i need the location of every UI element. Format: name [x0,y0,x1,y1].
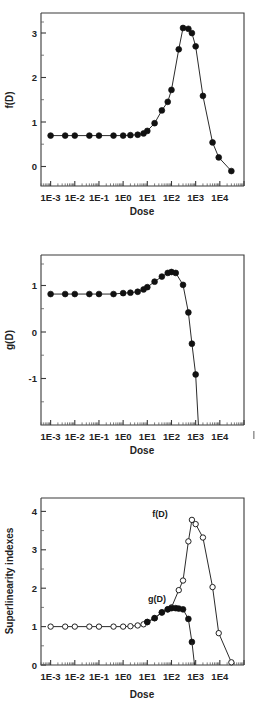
data-point [72,291,78,297]
data-point [135,289,141,295]
y-tick-label-3: 3 [32,28,37,39]
axis-frame [41,498,244,665]
data-point [62,624,67,629]
y-tick-label-1: 1 [32,117,38,128]
data-point [86,133,92,139]
axis-frame-top-right [41,13,244,186]
data-point [72,133,78,139]
y-axis-title: g(D) [4,330,15,350]
data-point [120,290,126,296]
x-tick-label: 1E3 [187,431,204,442]
series-g-markers [144,605,194,645]
series-g-line [147,608,192,642]
x-tick-labels: 1E-31E-21E-11E01E11E21E31E4 [41,431,229,442]
data-point [200,535,205,540]
x-axis-ticks [41,181,244,186]
y-tick-label-1: 1 [32,280,38,291]
x-tick-label: 1E3 [187,192,204,203]
x-tick-label: 1E-1 [89,431,110,442]
data-point [152,615,158,621]
data-point [144,128,150,134]
x-tick-label: 1E-3 [41,192,61,203]
x-tick-label: 1E-3 [41,671,61,682]
y-axis-ticks [41,511,46,665]
y-axis-title: f(D) [4,91,15,108]
series-f-markers [48,25,235,174]
series-f-line [51,28,232,171]
y-tick-label-2: 2 [32,72,37,83]
data-point [62,133,68,139]
x-tick-label: 1E-2 [65,192,85,203]
data-point [128,132,134,138]
x-tick-label: 1E3 [187,671,204,682]
x-axis-ticks [41,660,244,665]
data-point [159,107,165,113]
y-tick-label-4: 4 [32,506,38,517]
panel-g-dose: -1 0 1 1E-31E-21E-11E01E11E21E31E4 Dose … [0,235,258,465]
data-point [216,154,222,160]
data-point [210,140,216,146]
series-f-markers [48,517,234,665]
data-point [120,624,125,629]
x-tick-labels: 1E-31E-21E-11E01E11E21E31E4 [41,192,229,203]
data-point [185,616,191,622]
x-axis-title: Dose [130,445,155,456]
x-tick-label: 1E-3 [41,431,61,442]
data-point [189,341,195,347]
data-point [159,274,165,280]
axis-frame-top-right [41,498,244,665]
x-axis-ticks [41,420,244,425]
x-tick-label: 1E2 [163,192,180,203]
panel-f-plot: 0 1 2 3 1E-31E-21E-11E01E11E21E31E4 Dose… [0,0,258,235]
axis-frame [41,13,244,186]
y-tick-label-neg1: -1 [29,373,38,384]
panel-combined-plot: 0 1 2 3 4 1E-31E-21E-11E01E11E21E31E4 f(… [0,465,258,704]
data-point [135,623,140,628]
data-point [120,133,126,139]
x-axis-title: Dose [130,689,155,700]
x-tick-label: 1E1 [139,671,157,682]
y-tick-label-3: 3 [32,544,37,555]
data-point [96,133,102,139]
x-tick-label: 1E2 [163,671,180,682]
data-point [228,168,234,174]
page-edge-mark [253,431,255,439]
data-point [169,87,175,93]
data-point [135,132,141,138]
data-point [128,290,134,296]
x-tick-label: 1E4 [211,192,229,203]
axis-frame-top-right [41,255,244,425]
panel-superlinearity-indexes: 0 1 2 3 4 1E-31E-21E-11E01E11E21E31E4 f(… [0,465,258,704]
series-g-tail [192,642,195,665]
data-point [48,624,53,629]
data-point [111,291,117,297]
data-point [48,133,54,139]
data-point [186,539,191,544]
x-tick-label: 1E4 [211,431,229,442]
data-point [152,279,158,285]
data-point [111,133,117,139]
data-point [200,93,206,99]
x-tick-label: 1E-1 [89,192,110,203]
data-point [159,610,165,616]
data-point [96,291,102,297]
annotation-g: g(D) [148,594,166,604]
data-point [193,521,198,526]
data-point [87,624,92,629]
data-point [180,282,186,288]
data-point [185,310,191,316]
panel-g-plot: -1 0 1 1E-31E-21E-11E01E11E21E31E4 Dose … [0,235,258,465]
x-tick-label: 1E4 [211,671,229,682]
data-point [180,25,186,31]
data-point [86,291,92,297]
data-point [229,660,234,665]
data-point [216,630,221,635]
data-point [193,372,199,378]
data-point [144,619,150,625]
data-point [72,624,77,629]
data-point [176,46,182,52]
y-tick-label-1: 1 [32,621,38,632]
axis-frame [41,255,244,425]
x-tick-label: 1E-2 [65,431,85,442]
x-tick-label: 1E1 [139,431,157,442]
